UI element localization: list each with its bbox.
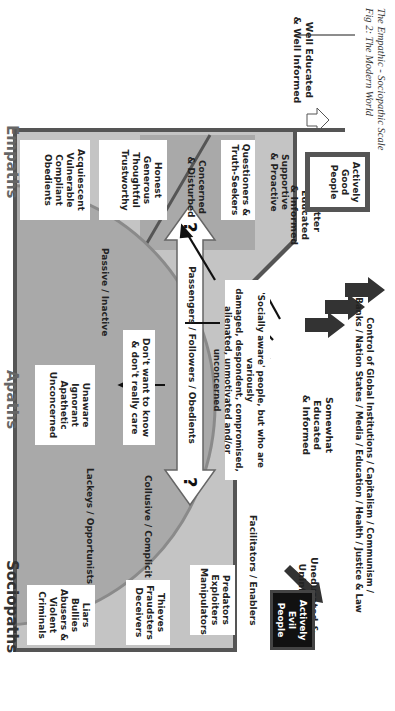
box-text: Criminals [36, 588, 47, 642]
box-text: Obedients [42, 143, 53, 217]
box-text: Concerned [196, 155, 207, 219]
questioners-box: Questioners & Truth-Seekers [221, 140, 255, 220]
question-mark-left: ? [180, 222, 201, 232]
box-text: Abusers & [58, 588, 69, 642]
box-text: & Disturbed [185, 155, 196, 219]
box-text: 'Socially aware' people, but who are var… [244, 283, 266, 477]
predators-box: Predators Exploiters Manipulators [190, 565, 235, 635]
box-text: Thoughtful [130, 143, 141, 217]
box-text: Trustworthy [119, 143, 130, 217]
box-text: Bullies [69, 588, 80, 642]
top-banner: Control of Global Institutions / Capital… [353, 290, 375, 620]
honest-box: Honest Generous Thoughtful Trustworthy [99, 140, 167, 220]
education-text: Educated [312, 380, 324, 470]
passive-label: Passive / Inactive [100, 248, 110, 336]
diagram-stage: The Empathic - Sociopathic Scale Fig 2: … [0, 0, 395, 711]
education-level-3: Somewhat Educated & Informed [301, 380, 336, 470]
thieves-box: Thieves Fraudsters Deceivers [126, 580, 170, 645]
education-text: & Informed [289, 170, 301, 260]
box-text: Acquiescent [75, 143, 86, 217]
liars-box: Liars Bullies Abusers & Violent Criminal… [27, 585, 95, 645]
box-text: Questioners & [240, 143, 251, 217]
box-text: Violent [47, 588, 58, 642]
box-text: People [328, 160, 339, 204]
box-text: Good [339, 160, 350, 204]
box-text: Exploiters [209, 568, 220, 632]
education-text: Somewhat [324, 380, 336, 470]
box-text: Actively [297, 596, 308, 644]
box-text: Liars [80, 588, 91, 642]
banner-line-1: Control of Global Institutions / Capital… [364, 290, 375, 620]
box-text: Ignorant [69, 368, 80, 442]
box-text: damaged, despondent, compromised, [233, 283, 244, 477]
box-text: Deceivers [133, 583, 144, 642]
lackeys-label: Lackeys / Opportunists [85, 468, 95, 584]
box-text: Compliant [53, 143, 64, 217]
box-text: alienated, unmotivated and/or unconcerne… [211, 283, 233, 477]
box-text: Fraudsters [144, 583, 155, 642]
actively-evil-box: Actively Evil People [270, 590, 315, 650]
box-text: Actively [350, 160, 361, 204]
box-text: Predators [220, 568, 231, 632]
empaths-label: Empaths [3, 125, 21, 199]
box-text: Vulnerable [64, 143, 75, 217]
box-text: & Proactive [268, 150, 279, 214]
question-mark-right: ? [180, 477, 201, 487]
box-text: Evil [286, 596, 297, 644]
box-text: People [275, 596, 286, 644]
education-text: & Informed [301, 380, 313, 470]
education-text: Well Educated [304, 10, 316, 110]
collusive-label: Collusive / Complicit [143, 475, 153, 578]
unaware-box: Unaware Ignorant Apathetic Unconcerned [35, 365, 95, 445]
education-level-1: Well Educated & Well Informed [292, 10, 315, 110]
facilitators-label: Facilitators / Enablers [248, 515, 258, 626]
concerned-label: Concerned & Disturbed [185, 155, 207, 219]
box-text: Unaware [80, 368, 91, 442]
box-text: Honest [152, 143, 163, 217]
box-text: Generous [141, 143, 152, 217]
socially-aware-box: 'Socially aware' people, but who are var… [225, 280, 270, 480]
acquiescent-box: Acquiescent Vulnerable Compliant Obedien… [20, 140, 90, 220]
box-text: & don't really care [129, 333, 140, 442]
box-text: Supportive [279, 150, 290, 214]
box-text: Truth-Seekers [229, 143, 240, 217]
apaths-label: Apaths [3, 370, 21, 429]
box-text: Manipulators [198, 568, 209, 632]
education-text: & Well Informed [292, 10, 304, 110]
actively-good-box: Actively Good People [305, 152, 370, 212]
box-text: Thieves [155, 583, 166, 642]
passengers-label: Passengers / Followers / Obedients [187, 250, 197, 460]
dont-want-box: Don't want to know & don't really care [123, 330, 155, 445]
box-text: Unconcerned [47, 368, 58, 442]
box-text: Apathetic [58, 368, 69, 442]
banner-line-2: Banks / Nation States / Media / Educatio… [353, 290, 364, 620]
box-text: Don't want to know [140, 333, 151, 442]
sociopaths-label: Sociopaths [3, 560, 21, 653]
supportive-label: Supportive & Proactive [268, 150, 290, 214]
